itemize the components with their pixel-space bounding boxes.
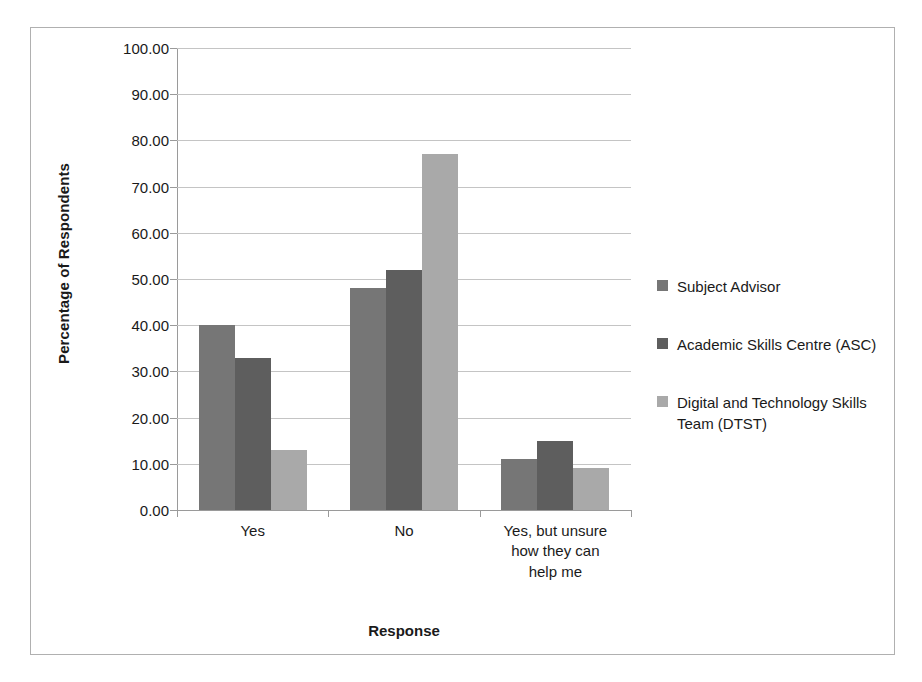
y-axis-tick-label: 80.00: [83, 133, 169, 148]
bar: [350, 288, 386, 510]
bar-group: [328, 48, 479, 510]
y-axis-tick-label: 0.00: [83, 503, 169, 518]
legend-label: Subject Advisor: [677, 276, 780, 298]
y-axis-title: Percentage of Respondents: [49, 28, 77, 498]
legend-label: Academic Skills Centre (ASC): [677, 334, 876, 356]
x-axis-title: Response: [177, 622, 631, 639]
bar: [501, 459, 537, 510]
y-axis-title-text: Percentage of Respondents: [55, 163, 72, 364]
x-axis-tick-label: Yes: [177, 521, 328, 541]
plot-area: [177, 48, 631, 510]
bar-group: [480, 48, 631, 510]
y-axis-tick-mark: [170, 279, 177, 280]
bar: [422, 154, 458, 510]
y-axis-tick-label: 30.00: [83, 364, 169, 379]
y-axis-tick-label: 100.00: [83, 41, 169, 56]
y-axis-tick-mark: [170, 418, 177, 419]
chart-frame: Percentage of Respondents 100.0090.0080.…: [30, 27, 895, 655]
bars-layer: [177, 48, 631, 510]
y-axis-tick-label: 90.00: [83, 87, 169, 102]
y-axis-tick-label: 20.00: [83, 410, 169, 425]
y-axis-tick-mark: [170, 464, 177, 465]
legend-swatch-icon: [657, 338, 668, 349]
x-axis-tick-mark: [177, 510, 178, 517]
y-axis-tick-label: 70.00: [83, 179, 169, 194]
y-axis-tick-mark: [170, 371, 177, 372]
legend-swatch-icon: [657, 280, 668, 291]
legend-item: Academic Skills Centre (ASC): [657, 334, 895, 356]
bar-group: [177, 48, 328, 510]
bar: [271, 450, 307, 510]
chart-legend: Subject AdvisorAcademic Skills Centre (A…: [657, 276, 895, 471]
y-axis-tick-mark: [170, 325, 177, 326]
y-axis-tick-labels: 100.0090.0080.0070.0060.0050.0040.0030.0…: [75, 48, 169, 510]
y-axis-tick-mark: [170, 510, 177, 511]
bar: [199, 325, 235, 510]
x-axis-tick-label: Yes, but unsurehow they canhelp me: [480, 521, 631, 582]
legend-item: Subject Advisor: [657, 276, 895, 298]
bar: [386, 270, 422, 510]
y-axis-tick-mark: [170, 140, 177, 141]
legend-label: Digital and Technology Skills Team (DTST…: [677, 392, 895, 436]
x-axis-line: [177, 510, 632, 511]
x-axis-tick-mark: [631, 510, 632, 517]
y-axis-tick-label: 60.00: [83, 225, 169, 240]
y-axis-tick-label: 10.00: [83, 456, 169, 471]
legend-item: Digital and Technology Skills Team (DTST…: [657, 392, 895, 436]
y-axis-tick-mark: [170, 187, 177, 188]
bar: [573, 468, 609, 510]
y-axis-tick-mark: [170, 48, 177, 49]
x-axis-tick-label: No: [328, 521, 479, 541]
bar: [235, 358, 271, 510]
x-axis-tick-mark: [328, 510, 329, 517]
legend-swatch-icon: [657, 396, 668, 407]
x-axis-tick-labels: YesNoYes, but unsurehow they canhelp me: [177, 521, 631, 607]
bar: [537, 441, 573, 510]
x-axis-tick-mark: [480, 510, 481, 517]
y-axis-tick-label: 40.00: [83, 318, 169, 333]
y-axis-tick-mark: [170, 94, 177, 95]
y-axis-tick-mark: [170, 233, 177, 234]
y-axis-tick-label: 50.00: [83, 272, 169, 287]
